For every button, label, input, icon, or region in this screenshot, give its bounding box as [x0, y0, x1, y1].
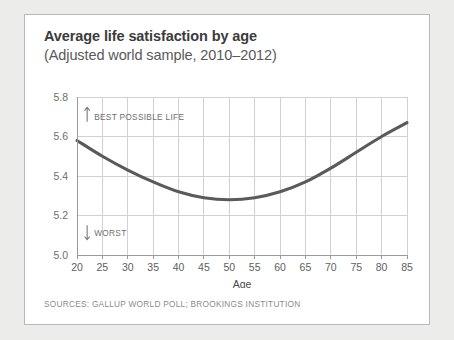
x-axis-tick-label: 25	[97, 261, 109, 273]
x-axis-tick-label: 55	[249, 261, 261, 273]
x-axis-tick-label: 85	[401, 261, 413, 273]
life-satisfaction-curve	[77, 123, 407, 200]
chart-plot-area: 5.05.25.45.65.8 202530354045505560657075…	[25, 73, 431, 288]
chart-title: Average life satisfaction by age	[44, 28, 257, 44]
x-axis-title: Age	[233, 278, 252, 288]
x-axis-tick-label: 35	[147, 261, 159, 273]
y-axis-tick-label: 5.4	[53, 170, 68, 182]
x-axis-labels: 2025303540455055606570758085	[71, 261, 413, 273]
x-axis-tickmarks	[77, 255, 407, 259]
annotation-best-possible-life: BEST POSSIBLE LIFE	[85, 107, 185, 121]
x-axis-tick-label: 80	[376, 261, 388, 273]
y-axis-tick-label: 5.6	[53, 130, 68, 142]
x-axis-tick-label: 30	[122, 261, 134, 273]
y-axis-tick-label: 5.0	[53, 249, 68, 261]
arrow-down-icon	[85, 225, 90, 239]
x-axis-tick-label: 65	[300, 261, 312, 273]
x-axis-tick-label: 70	[325, 261, 337, 273]
y-axis-tick-label: 5.8	[53, 91, 68, 103]
x-axis-tick-label: 50	[223, 261, 235, 273]
annotation-best-label: BEST POSSIBLE LIFE	[94, 112, 184, 122]
x-axis-tick-label: 45	[198, 261, 210, 273]
chart-card: Average life satisfaction by age (Adjust…	[24, 14, 430, 325]
line-chart-svg: 5.05.25.45.65.8 202530354045505560657075…	[25, 73, 431, 288]
x-axis-tick-label: 40	[173, 261, 185, 273]
chart-subtitle: (Adjusted world sample, 2010–2012)	[44, 47, 277, 63]
arrow-up-icon	[85, 107, 90, 121]
sources-note: SOURCES: GALLUP WORLD POLL; BROOKINGS IN…	[44, 299, 300, 309]
x-axis-tick-label: 75	[350, 261, 362, 273]
annotation-worst: WORST	[85, 225, 127, 239]
y-axis-labels: 5.05.25.45.65.8	[53, 91, 68, 261]
x-axis-tick-label: 60	[274, 261, 286, 273]
y-axis-tick-label: 5.2	[53, 209, 68, 221]
x-axis-tick-label: 20	[71, 261, 83, 273]
annotation-worst-label: WORST	[94, 228, 126, 238]
